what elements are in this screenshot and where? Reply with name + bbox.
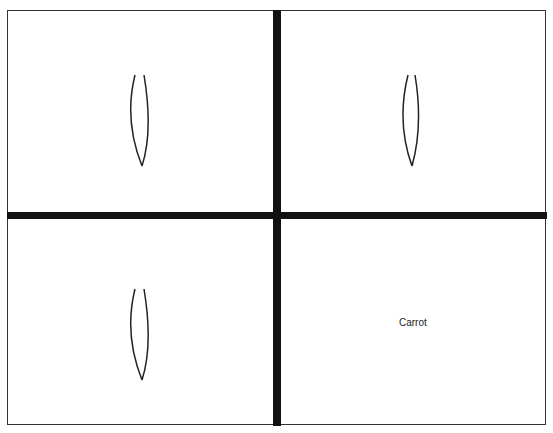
panel-top-left <box>8 11 273 212</box>
leaf-outline-icon <box>399 71 429 171</box>
word-label: Carrot <box>399 317 427 328</box>
panel-top-right <box>281 11 546 212</box>
panel-bottom-right: Carrot <box>281 219 546 425</box>
horizontal-divider <box>7 212 547 219</box>
panel-bottom-left <box>8 219 273 425</box>
leaf-outline-icon <box>128 285 158 385</box>
leaf-outline-icon <box>128 71 158 171</box>
